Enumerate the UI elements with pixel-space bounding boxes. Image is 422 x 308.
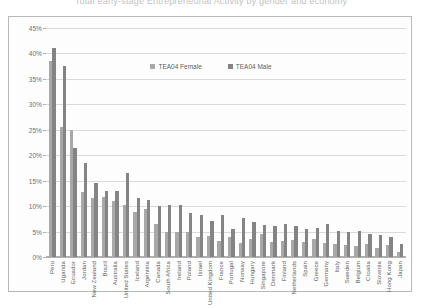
bar-male [168, 205, 171, 257]
bar-male [73, 148, 76, 257]
bar-male [179, 205, 182, 257]
chart-grid-area: 0%5%10%15%20%25%30%35%40%45% PeruUgandaE… [46, 28, 406, 257]
x-axis-tick-label: United Kingdom [207, 261, 213, 305]
bar-male [94, 183, 97, 257]
x-axis-tick-label: Greece [313, 261, 319, 281]
bar-male [263, 225, 266, 257]
bar-group: Sweden [342, 28, 353, 257]
bar-male [126, 173, 129, 257]
bar-group: Finland [279, 28, 290, 257]
chart-bars: PeruUgandaEcuadorJordanNew ZealandBrazil… [46, 28, 406, 257]
x-axis-tick-label: Netherlands [291, 261, 297, 294]
y-axis-tick-label: 35% [29, 75, 42, 82]
bar-group: Italy [331, 28, 342, 257]
bar-group: Jordan [79, 28, 90, 257]
x-axis-tick-label: Belgium [355, 261, 361, 283]
chart-plot-frame: TEA04 Female TEA04 Male 0%5%10%15%20%25%… [8, 16, 412, 292]
x-axis-tick-label: South Africa [165, 261, 171, 295]
y-axis-tick-label: 10% [29, 203, 42, 210]
y-axis-tick-label: 25% [29, 126, 42, 133]
bar-male [63, 66, 66, 257]
x-axis-tick-label: Argentina [144, 261, 150, 288]
y-axis-tick-label: 30% [29, 101, 42, 108]
x-axis-tick-label: Singapore [260, 261, 266, 289]
bar-male [242, 218, 245, 257]
x-axis-tick-label: Iceland [134, 261, 140, 281]
bar-group: Japan [395, 28, 406, 257]
bar-male [189, 213, 192, 257]
x-axis-tick-label: Uganda [60, 261, 66, 283]
x-axis-tick-label: Jordan [81, 261, 87, 280]
bar-group: Singapore [258, 28, 269, 257]
x-axis-tick-label: Italy [334, 261, 340, 273]
x-axis-tick-label: Japan [397, 261, 403, 278]
y-axis-tick-label: 15% [29, 177, 42, 184]
y-axis-tick-label: 5% [32, 228, 42, 235]
x-axis-tick-label: Finland [281, 261, 287, 281]
bar-group: Israel [194, 28, 205, 257]
x-axis-tick-label: Poland [186, 261, 192, 280]
bar-group: United States [121, 28, 132, 257]
bar-group: Belgium [352, 28, 363, 257]
bar-group: United Kingdom [205, 28, 216, 257]
bar-male [347, 232, 350, 257]
bar-male [137, 198, 140, 257]
bar-group: Argentina [142, 28, 153, 257]
bar-male [358, 231, 361, 257]
bar-group: Croatia [363, 28, 374, 257]
bar-group: New Zealand [89, 28, 100, 257]
bar-group: South Africa [163, 28, 174, 257]
bar-male [379, 235, 382, 257]
y-axis-tick-label: 45% [29, 25, 42, 32]
bar-male [52, 48, 55, 257]
bar-male [316, 228, 319, 258]
bar-male [210, 221, 213, 257]
bar-group: Poland [184, 28, 195, 257]
bar-group: Iceland [131, 28, 142, 257]
bar-male [389, 237, 392, 257]
bar-male [337, 231, 340, 257]
x-axis-tick-label: Peru [49, 261, 55, 274]
bar-group: Norway [237, 28, 248, 257]
x-axis-tick-label: Croatia [365, 261, 371, 281]
bar-group: Slovenia [373, 28, 384, 257]
x-axis-tick-label: Israel [197, 261, 203, 276]
bar-group: Australia [110, 28, 121, 257]
bar-group: Portugal [226, 28, 237, 257]
x-axis-tick-label: Canada [155, 261, 161, 283]
x-axis-tick-label: Ecuador [70, 261, 76, 284]
bar-group: Uganda [58, 28, 69, 257]
bar-male [294, 226, 297, 257]
y-axis-tick-mark [43, 257, 46, 258]
x-axis-tick-label: Sweden [344, 261, 350, 283]
bar-group: Denmark [268, 28, 279, 257]
x-axis-tick-label: Australia [112, 261, 118, 285]
bar-group: Netherlands [289, 28, 300, 257]
bar-male [158, 206, 161, 257]
x-axis-tick-label: Ireland [176, 261, 182, 280]
x-axis-tick-label: Germany [323, 261, 329, 286]
bar-group: Brazil [100, 28, 111, 257]
bar-male [400, 244, 403, 257]
bar-group: Spain [300, 28, 311, 257]
x-axis-tick-label: France [218, 261, 224, 280]
y-axis-tick-label: 20% [29, 152, 42, 159]
gridline [46, 257, 406, 258]
bar-male [231, 229, 234, 257]
chart-title: Total early-stage Entrepreneurial Activi… [0, 0, 422, 9]
x-axis-tick-label: United States [123, 261, 129, 298]
bar-male [252, 222, 255, 257]
bar-group: Germany [321, 28, 332, 257]
bar-group: Canada [152, 28, 163, 257]
bar-group: France [216, 28, 227, 257]
bar-group: Peru [47, 28, 58, 257]
bar-group: Ecuador [68, 28, 79, 257]
bar-group: Hungary [247, 28, 258, 257]
x-axis-tick-label: Denmark [270, 261, 276, 286]
bar-male [284, 224, 287, 257]
x-axis-tick-label: New Zealand [91, 261, 97, 297]
bar-group: Ireland [173, 28, 184, 257]
y-axis-tick-label: 40% [29, 50, 42, 57]
bar-male [200, 215, 203, 257]
y-axis-tick-label: 0% [32, 254, 42, 261]
